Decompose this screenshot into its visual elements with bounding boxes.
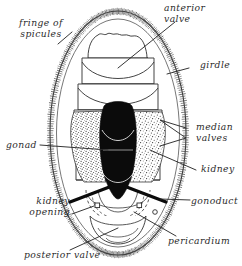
- label-pericardium: pericardium: [168, 236, 242, 247]
- label-gonad: gonad: [6, 140, 50, 151]
- label-median-valves: median valves: [196, 122, 242, 143]
- label-girdle: girdle: [200, 60, 242, 71]
- label-anterior-valve: anterior valve: [164, 3, 240, 24]
- pore-marker-right: [153, 210, 158, 215]
- median-valve-1: [82, 58, 154, 84]
- label-posterior-valve: posterior valve: [24, 250, 124, 261]
- label-kidney: kidney: [201, 164, 242, 175]
- label-fringe-of-spicules: fringe of spicules: [4, 18, 78, 39]
- anterior-valve: [88, 33, 148, 58]
- kidney-opening-right: [137, 203, 142, 208]
- label-kidney-opening: kidney opening: [2, 196, 70, 217]
- label-gonoduct: gonoduct: [191, 196, 242, 207]
- anatomical-diagram: fringe of spicules anterior valve girdle…: [0, 0, 242, 266]
- kidney-opening-left: [95, 203, 100, 208]
